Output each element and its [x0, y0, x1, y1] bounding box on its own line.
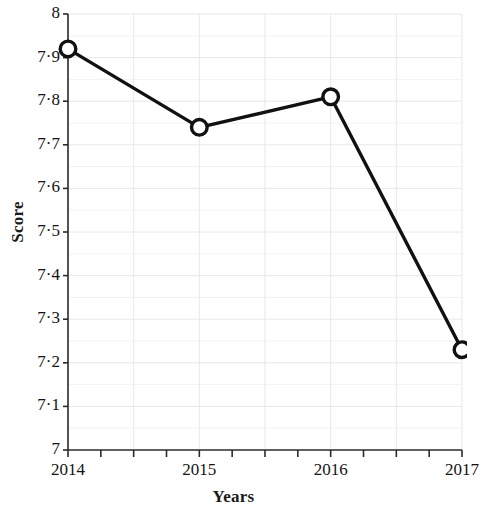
x-axis-tick-label: 2017 [422, 460, 484, 480]
data-point-2015 [192, 120, 208, 136]
x-axis-ticks [68, 450, 462, 457]
y-axis-tick-label: 7·9 [4, 47, 60, 67]
x-axis-tick-label: 2014 [28, 460, 108, 480]
y-axis-tick-label: 7·8 [4, 90, 60, 110]
data-point-markers [60, 41, 467, 357]
y-axis-tick-label: 7 [4, 439, 60, 459]
x-axis-tick-label: 2015 [159, 460, 239, 480]
x-axis-tick-label: 2016 [291, 460, 371, 480]
y-axis-tick-label: 8 [4, 3, 60, 23]
y-axis-tick-label: 7·3 [4, 308, 60, 328]
y-axis-tick-label: 7·4 [4, 265, 60, 285]
data-point-2016 [323, 89, 339, 105]
y-axis-tick-label: 7·2 [4, 352, 60, 372]
y-axis-tick-label: 7·1 [4, 395, 60, 415]
y-axis-title: Score [8, 187, 28, 257]
y-axis-tick-label: 7·7 [4, 134, 60, 154]
x-axis-title: Years [0, 487, 467, 507]
data-point-2017 [454, 342, 467, 358]
data-point-2014 [60, 41, 76, 57]
